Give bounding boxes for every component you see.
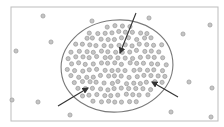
particle-dot xyxy=(76,86,80,90)
particle-dot xyxy=(160,43,164,47)
particle-dot xyxy=(72,69,76,73)
particle-dot xyxy=(160,69,164,73)
particle-dot xyxy=(134,48,138,52)
particle-dot xyxy=(94,54,98,58)
particle-dot xyxy=(94,44,98,48)
particle-dot xyxy=(91,62,95,66)
particle-dot xyxy=(87,68,91,72)
particle-dot xyxy=(161,56,165,60)
particle-dot xyxy=(208,23,212,27)
particle-dot xyxy=(74,42,78,46)
particle-dot xyxy=(142,73,146,77)
particle-dot xyxy=(95,92,99,96)
particle-dot xyxy=(113,61,117,65)
particle-dot xyxy=(107,74,111,78)
diagram-canvas xyxy=(0,0,224,127)
particle-dot xyxy=(114,50,118,54)
particle-dot xyxy=(109,44,113,48)
particle-dot xyxy=(69,73,73,77)
particle-dot xyxy=(80,42,84,46)
particle-dot xyxy=(85,36,89,40)
particle-dot xyxy=(132,68,136,72)
particle-dot xyxy=(143,49,147,53)
outer-dots xyxy=(10,14,214,119)
particle-dot xyxy=(85,50,89,54)
particle-dot xyxy=(116,93,120,97)
particle-dot xyxy=(119,86,123,90)
particle-dot xyxy=(124,92,128,96)
particle-dot xyxy=(87,93,91,97)
particle-dot xyxy=(91,99,95,103)
particle-dot xyxy=(145,31,149,35)
particle-dot xyxy=(88,43,92,47)
particle-dot xyxy=(156,62,160,66)
particle-dot xyxy=(105,61,109,65)
particle-dot xyxy=(146,93,150,97)
particle-dot xyxy=(163,74,167,78)
particle-dot xyxy=(160,80,164,84)
particle-dot xyxy=(112,74,116,78)
particle-dot xyxy=(90,86,94,90)
particle-dot xyxy=(103,68,107,72)
particle-dot xyxy=(144,80,148,84)
particle-dot xyxy=(96,31,100,35)
particle-dot xyxy=(119,74,123,78)
particle-dot xyxy=(102,81,106,85)
particle-dot xyxy=(99,49,103,53)
particle-dot xyxy=(135,61,139,65)
particle-dot xyxy=(65,67,69,71)
particle-dot xyxy=(95,67,99,71)
particle-dot xyxy=(69,50,73,54)
particle-dot xyxy=(81,55,85,59)
particle-dot xyxy=(68,113,72,117)
particle-dot xyxy=(107,99,111,103)
particle-dot xyxy=(210,86,214,90)
diagram xyxy=(0,0,224,127)
particle-dot xyxy=(127,75,131,79)
particle-dot xyxy=(141,87,145,91)
particle-dot xyxy=(110,81,114,85)
particle-dot xyxy=(127,86,131,90)
particle-dot xyxy=(149,36,153,40)
particle-dot xyxy=(77,49,81,53)
particle-dot xyxy=(142,36,146,40)
particle-dot xyxy=(41,14,45,18)
particle-dot xyxy=(117,29,121,33)
particle-dot xyxy=(149,62,153,66)
particle-dot xyxy=(130,30,134,34)
particle-dot xyxy=(102,43,106,47)
particle-dot xyxy=(110,31,114,35)
particle-dot xyxy=(127,100,131,104)
particle-dot xyxy=(110,68,114,72)
particle-dot xyxy=(134,86,138,90)
particle-dot xyxy=(74,55,78,59)
particle-dot xyxy=(131,93,135,97)
particle-dot xyxy=(152,55,156,59)
particle-dot xyxy=(130,44,134,48)
particle-dot xyxy=(209,115,213,119)
particle-dot xyxy=(148,88,152,92)
particle-dot xyxy=(124,82,128,86)
particle-dot xyxy=(103,31,107,35)
particle-dot xyxy=(149,74,153,78)
particle-dot xyxy=(187,80,191,84)
particle-dot xyxy=(90,36,94,40)
particle-dot xyxy=(106,38,110,42)
particle-dot xyxy=(113,24,117,28)
particle-dot xyxy=(116,79,120,83)
particle-dot xyxy=(85,75,89,79)
particle-dot xyxy=(36,100,40,104)
particle-dot xyxy=(72,81,76,85)
particle-dot xyxy=(141,61,145,65)
particle-dot xyxy=(134,100,138,104)
particle-dot xyxy=(145,43,149,47)
particle-dot xyxy=(91,75,95,79)
particle-dot xyxy=(157,50,161,54)
particle-dot xyxy=(130,56,134,60)
particle-dot xyxy=(88,80,92,84)
particle-dot xyxy=(113,100,117,104)
particle-dot xyxy=(99,61,103,65)
particle-dot xyxy=(77,75,81,79)
particle-dot xyxy=(135,37,139,41)
particle-dot xyxy=(147,16,151,20)
